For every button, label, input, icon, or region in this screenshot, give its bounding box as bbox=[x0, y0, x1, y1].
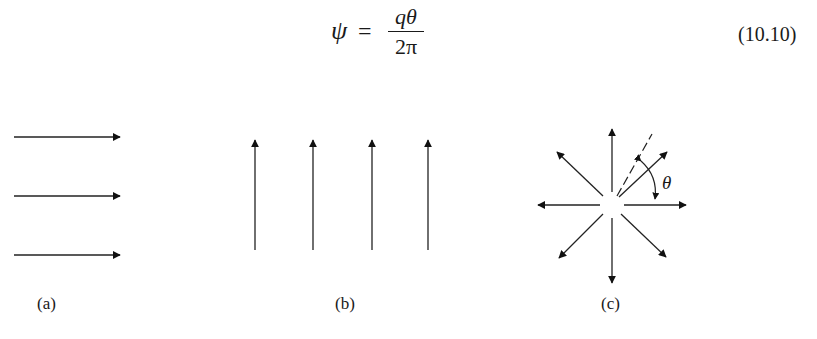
radial-arrow-down-right bbox=[621, 214, 666, 257]
radial-arrow-up-right bbox=[619, 152, 667, 197]
radial-arrow-down-left bbox=[559, 214, 603, 258]
panel-b-label: (b) bbox=[335, 294, 355, 314]
panel-c-point-source: θ bbox=[538, 129, 686, 283]
angle-reference-dashed-line bbox=[617, 134, 652, 196]
panel-a-horizontal-flow bbox=[14, 137, 120, 255]
flow-figure: θ bbox=[0, 0, 817, 339]
theta-symbol: θ bbox=[662, 172, 671, 193]
panel-a-label: (a) bbox=[37, 294, 56, 314]
radial-arrow-up-left bbox=[557, 152, 603, 196]
panel-c-label: (c) bbox=[601, 294, 620, 314]
angle-arc bbox=[641, 161, 655, 199]
panel-b-vertical-flow bbox=[255, 140, 428, 250]
